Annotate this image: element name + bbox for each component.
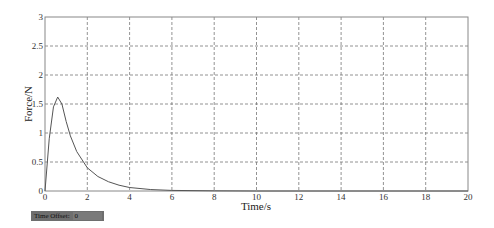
time-offset-label: Time Offset: [31, 212, 70, 220]
force-time-plot: 0246810121416182000.511.522.53 Time/s Fo… [0, 0, 494, 228]
svg-text:2: 2 [39, 70, 44, 80]
svg-text:14: 14 [337, 192, 347, 202]
time-offset-bar: Time Offset: 0 [31, 211, 104, 221]
svg-text:6: 6 [170, 192, 175, 202]
svg-text:0.5: 0.5 [32, 157, 44, 167]
svg-text:2: 2 [85, 192, 90, 202]
y-axis-label: Force/N [22, 86, 34, 122]
svg-text:3: 3 [39, 12, 44, 22]
svg-text:4: 4 [127, 192, 132, 202]
svg-text:20: 20 [464, 192, 474, 202]
svg-text:16: 16 [379, 192, 389, 202]
x-axis-label: Time/s [241, 200, 271, 212]
svg-text:0: 0 [43, 192, 48, 202]
svg-text:8: 8 [212, 192, 217, 202]
svg-text:2.5: 2.5 [32, 41, 44, 51]
svg-text:1: 1 [39, 128, 44, 138]
svg-text:18: 18 [421, 192, 431, 202]
tick-labels: 0246810121416182000.511.522.53 [32, 12, 473, 202]
grid-lines [45, 17, 468, 191]
svg-text:0: 0 [39, 186, 44, 196]
time-offset-value: 0 [73, 212, 102, 220]
svg-text:12: 12 [294, 192, 303, 202]
